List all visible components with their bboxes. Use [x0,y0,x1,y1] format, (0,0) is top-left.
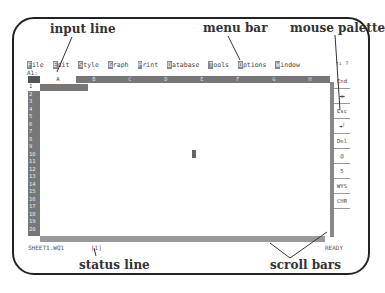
callout-leader-lines [0,0,383,293]
